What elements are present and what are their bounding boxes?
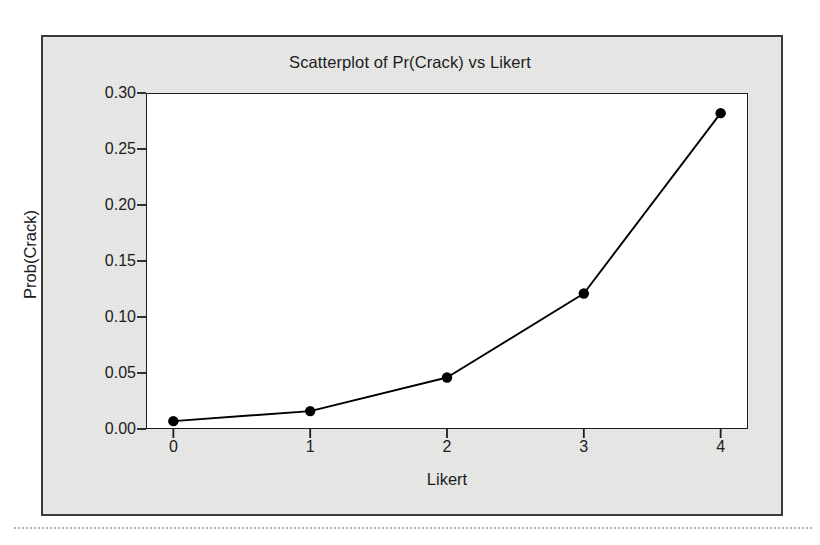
scan-rule-divider: [14, 527, 814, 529]
y-tick-label: 0.00: [74, 420, 136, 438]
data-point-marker[interactable]: [715, 108, 725, 118]
x-tick-label: 3: [554, 438, 614, 456]
data-point-marker[interactable]: [442, 372, 452, 382]
x-axis-tick-labels: 01234: [146, 438, 748, 462]
x-tick-label: 4: [691, 438, 751, 456]
figure-root: Scatterplot of Pr(Crack) vs Likert Prob(…: [0, 0, 820, 545]
y-tick-label: 0.25: [74, 140, 136, 158]
y-axis-tick-labels: 0.000.050.100.150.200.250.30: [60, 93, 136, 429]
x-tick-label: 0: [143, 438, 203, 456]
x-axis-label: Likert: [146, 470, 748, 489]
y-tick-label: 0.20: [74, 196, 136, 214]
y-tick-label: 0.05: [74, 364, 136, 382]
y-axis-label: Prob(Crack): [21, 155, 40, 355]
x-tick-label: 2: [417, 438, 477, 456]
data-point-marker[interactable]: [305, 406, 315, 416]
y-tick-label: 0.15: [74, 252, 136, 270]
data-point-marker[interactable]: [168, 416, 178, 426]
y-tick-label: 0.10: [74, 308, 136, 326]
data-markers-group: [168, 108, 726, 426]
y-tick-label: 0.30: [74, 84, 136, 102]
data-point-marker[interactable]: [579, 288, 589, 298]
plot-canvas: [146, 93, 748, 429]
x-tick-label: 1: [280, 438, 340, 456]
axis-ticks-group: [137, 93, 721, 438]
chart-title: Scatterplot of Pr(Crack) vs Likert: [0, 53, 820, 72]
